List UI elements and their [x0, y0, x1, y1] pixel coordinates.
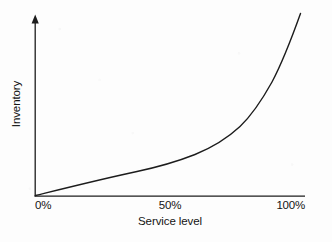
inventory-curve: [36, 14, 301, 196]
x-axis-tick-0: 0%: [35, 199, 51, 211]
x-axis-tick-100: 100%: [250, 199, 305, 211]
x-axis-tick-50: 50%: [145, 199, 195, 211]
chart-figure: 0% 50% 100% Service level Inventory: [0, 0, 332, 242]
y-axis-title: Inventory: [10, 49, 22, 159]
y-axis-arrow-icon: [32, 15, 39, 24]
x-axis-title: Service level: [35, 215, 305, 227]
